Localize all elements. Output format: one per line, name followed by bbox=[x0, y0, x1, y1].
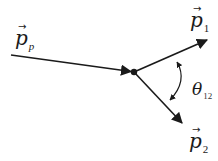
outgoing-momentum-2-arrow bbox=[134, 72, 182, 123]
label-angle-theta: θ12 bbox=[192, 81, 212, 98]
label-outgoing-momentum-1: →p1 bbox=[190, 10, 209, 30]
subscript: 1 bbox=[204, 22, 210, 34]
angle-arc-double-arrow bbox=[170, 62, 181, 100]
subscript: 2 bbox=[203, 143, 209, 155]
theta-symbol: θ bbox=[192, 79, 202, 99]
label-outgoing-momentum-2: →p2 bbox=[189, 131, 208, 151]
vector-arrow-icon: → bbox=[18, 22, 26, 32]
vector-diagram bbox=[0, 0, 218, 161]
vector-arrow-icon: → bbox=[192, 125, 200, 135]
vector-symbol: →p bbox=[189, 131, 202, 151]
subscript: p bbox=[29, 40, 35, 52]
vector-symbol: →p bbox=[190, 10, 203, 30]
subscript: 12 bbox=[203, 91, 212, 101]
label-incoming-momentum: →pp bbox=[15, 28, 34, 48]
vector-arrow-icon: → bbox=[193, 4, 201, 14]
incoming-momentum-arrow bbox=[11, 55, 131, 72]
vector-symbol: →p bbox=[15, 28, 28, 48]
outgoing-momentum-1-arrow bbox=[134, 40, 207, 72]
diagram-canvas: →pp →p1 →p2 θ12 bbox=[0, 0, 218, 161]
